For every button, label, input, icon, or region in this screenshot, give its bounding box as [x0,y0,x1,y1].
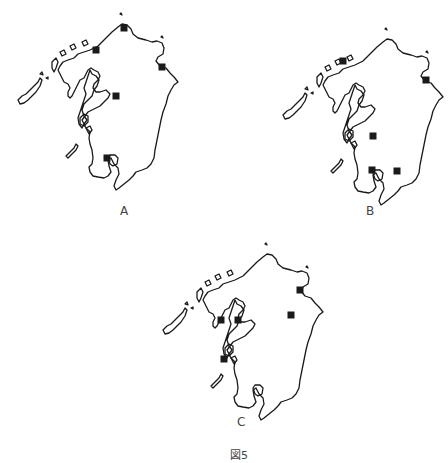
map-c-marker [297,287,304,294]
map-c-marker [221,356,228,363]
map-a-label: A [120,204,128,218]
map-a-marker [121,25,128,32]
map-b-marker [369,167,376,174]
map-b-marker [394,168,401,175]
map-c-label: C [237,415,245,429]
figure-canvas [0,0,448,463]
map-c [163,243,323,420]
markers-layer [93,25,430,363]
map-a-marker [113,93,120,100]
map-a-marker [93,47,100,54]
map-c-marker [235,317,242,324]
map-c-marker [218,317,225,324]
map-a-marker [104,155,111,162]
map-b-marker [340,58,347,65]
figure-caption: 図5 [230,446,248,462]
map-b-marker [423,77,430,84]
map-c-marker [288,312,295,319]
map-b-label: B [366,204,374,218]
map-a [18,13,178,190]
map-b [283,28,443,205]
map-a-marker [159,64,166,71]
map-b-marker [370,133,377,140]
